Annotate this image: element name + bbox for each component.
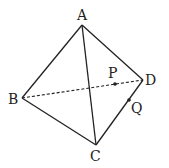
- label-q: Q: [131, 100, 142, 116]
- edge-ac: [82, 25, 96, 145]
- point-p: [113, 82, 117, 86]
- label-a: A: [76, 7, 88, 23]
- label-c: C: [90, 148, 101, 164]
- tetrahedron-diagram: A B C D P Q: [0, 0, 169, 168]
- edge-bc: [22, 98, 96, 145]
- label-p: P: [108, 65, 117, 81]
- diagram-canvas: A B C D P Q: [0, 0, 169, 168]
- label-b: B: [8, 91, 18, 107]
- edge-bd-hidden: [22, 80, 143, 98]
- label-d: D: [145, 72, 156, 88]
- edge-ab: [22, 25, 82, 98]
